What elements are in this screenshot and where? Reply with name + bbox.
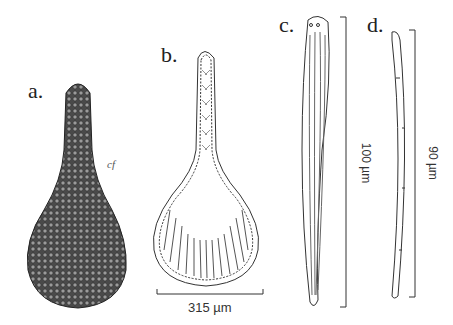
- scale-label-b: 315 µm: [188, 300, 232, 315]
- scale-label-d: 90 µm: [426, 133, 440, 193]
- panel-label-b: b.: [161, 42, 178, 68]
- annotation-a: cf: [107, 158, 115, 170]
- scale-bar-d: [409, 30, 415, 297]
- panel-label-d: d.: [367, 12, 384, 38]
- scale-bar-b: [157, 289, 263, 294]
- panel-label-c: c.: [279, 12, 294, 38]
- scale-bar-c: [340, 17, 346, 307]
- figure-canvas: [0, 0, 453, 325]
- specimen-a: [27, 84, 126, 308]
- specimen-c: [302, 16, 329, 305]
- specimen-d: [392, 32, 405, 298]
- specimen-b: [153, 52, 258, 287]
- panel-label-a: a.: [28, 78, 43, 104]
- scale-label-c: 100 µm: [359, 133, 373, 193]
